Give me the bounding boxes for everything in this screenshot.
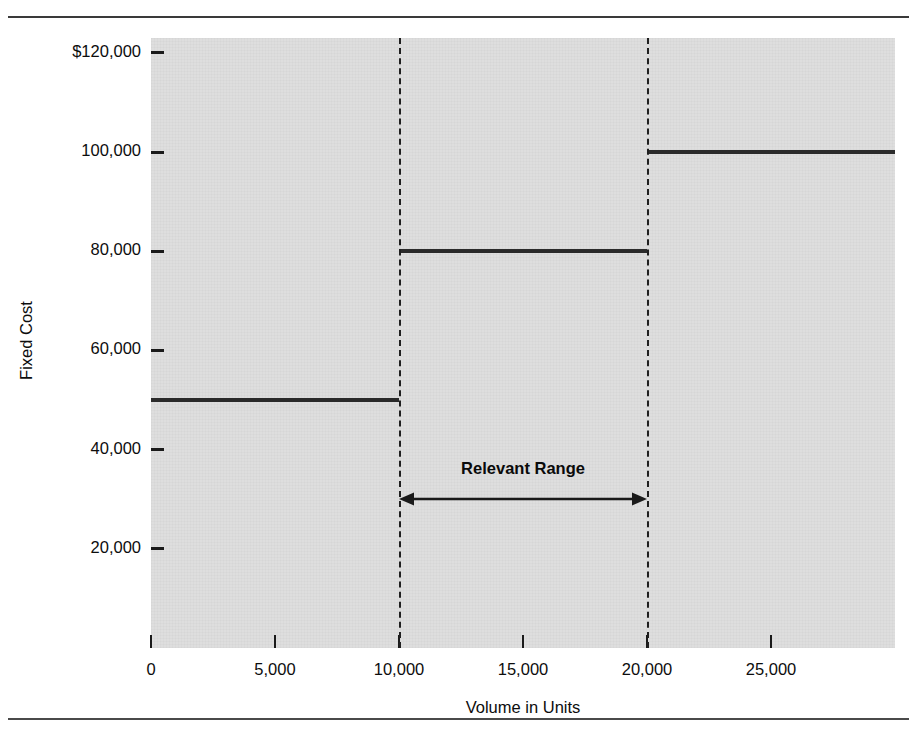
y-axis-tick: [151, 151, 164, 154]
y-axis-tick-label: 60,000: [91, 339, 141, 358]
x-axis-tick: [150, 635, 152, 648]
step-cost-segment: [151, 398, 399, 402]
step-cost-segment: [647, 150, 895, 154]
plot-area: Relevant Range: [151, 38, 895, 648]
y-axis-title: Fixed Cost: [17, 301, 36, 381]
x-axis-tick: [770, 635, 772, 648]
y-axis-tick-label: 40,000: [91, 439, 141, 458]
y-axis-tick: [151, 448, 164, 451]
x-axis-tick-label: 25,000: [746, 660, 796, 679]
x-axis-tick-label: 15,000: [498, 660, 548, 679]
y-axis-tick-label: $120,000: [72, 42, 141, 61]
x-axis-tick-label: 10,000: [374, 660, 424, 679]
y-axis-tick: [151, 250, 164, 253]
y-axis-tick-label: 20,000: [91, 538, 141, 557]
x-axis-tick-label: 5,000: [254, 660, 295, 679]
y-axis-tick: [151, 547, 164, 550]
y-axis-tick-label: 80,000: [91, 240, 141, 259]
top-divider-rule: [8, 16, 909, 18]
y-axis-tick: [151, 349, 164, 352]
relevant-range-lower-dashed-line: [399, 38, 401, 648]
fixed-cost-step-chart: Fixed Cost Volume in Units $120,000100,0…: [0, 0, 917, 739]
x-axis-tick: [274, 635, 276, 648]
x-axis-tick-label: 0: [146, 660, 155, 679]
x-axis-tick: [522, 635, 524, 648]
y-axis-tick-label: 100,000: [81, 141, 141, 160]
bottom-divider-rule: [8, 718, 909, 720]
x-axis-tick-label: 20,000: [622, 660, 672, 679]
y-axis-tick: [151, 51, 164, 54]
relevant-range-label: Relevant Range: [461, 459, 585, 478]
relevant-range-upper-dashed-line: [647, 38, 649, 648]
x-axis-title: Volume in Units: [466, 698, 581, 717]
relevant-range-arrow: [399, 489, 647, 509]
step-cost-segment: [399, 249, 647, 253]
